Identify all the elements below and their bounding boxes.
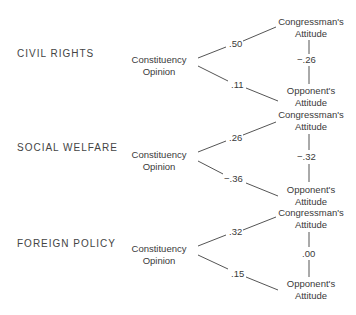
topic-label: CIVIL RIGHTS <box>17 48 94 59</box>
node-line: Opponent's <box>280 184 342 196</box>
node-line: Constituency <box>128 54 190 66</box>
node-line: Constituency <box>128 149 190 161</box>
node-line: Attitude <box>276 219 346 231</box>
coefficient-top: .50 <box>228 38 243 49</box>
node-line: Opinion <box>128 66 190 78</box>
coefficient-vertical: −.26 <box>296 54 317 65</box>
coefficient-vertical: .00 <box>301 248 316 259</box>
node-line: Attitude <box>280 290 342 302</box>
coefficient-bottom: −.36 <box>223 173 244 184</box>
opponent-attitude-node: Opponent's Attitude <box>280 184 342 208</box>
coefficient-bottom: .11 <box>230 79 245 90</box>
coefficient-bottom: .15 <box>230 268 245 279</box>
node-line: Attitude <box>280 97 342 109</box>
node-line: Opinion <box>128 255 190 267</box>
node-line: Constituency <box>128 243 190 255</box>
topic-label: SOCIAL WELFARE <box>17 142 118 153</box>
congressman-attitude-node: Congressman's Attitude <box>276 16 346 40</box>
node-line: Congressman's <box>276 16 346 28</box>
coefficient-vertical: −.32 <box>296 151 317 162</box>
node-line: Congressman's <box>276 207 346 219</box>
node-line: Opinion <box>128 161 190 173</box>
constituency-opinion-node: Constituency Opinion <box>128 149 190 173</box>
node-line: Congressman's <box>276 109 346 121</box>
congressman-attitude-node: Congressman's Attitude <box>276 109 346 133</box>
coefficient-top: .32 <box>228 226 243 237</box>
coefficient-top: .26 <box>228 132 243 143</box>
opponent-attitude-node: Opponent's Attitude <box>280 278 342 302</box>
constituency-opinion-node: Constituency Opinion <box>128 54 190 78</box>
node-line: Opponent's <box>280 85 342 97</box>
constituency-opinion-node: Constituency Opinion <box>128 243 190 267</box>
opponent-attitude-node: Opponent's Attitude <box>280 85 342 109</box>
node-line: Attitude <box>276 121 346 133</box>
topic-label: FOREIGN POLICY <box>17 238 116 249</box>
congressman-attitude-node: Congressman's Attitude <box>276 207 346 231</box>
node-line: Attitude <box>276 28 346 40</box>
node-line: Opponent's <box>280 278 342 290</box>
